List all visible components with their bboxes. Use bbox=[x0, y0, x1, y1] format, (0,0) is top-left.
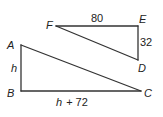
side-label-ab: h bbox=[11, 62, 17, 74]
similar-triangles-diagram: F E D A B C 80 32 h h+ 72 bbox=[0, 0, 163, 117]
triangle-def bbox=[56, 26, 138, 60]
edge-fd bbox=[56, 26, 138, 60]
side-label-bc: h+ 72 bbox=[56, 96, 88, 108]
vertex-label-d: D bbox=[138, 62, 146, 74]
side-label-bc-variable: h bbox=[56, 96, 62, 108]
vertex-label-b: B bbox=[7, 87, 14, 99]
vertex-label-a: A bbox=[6, 39, 14, 51]
vertex-label-e: E bbox=[139, 13, 147, 25]
triangle-abc bbox=[21, 45, 141, 91]
vertex-label-c: C bbox=[144, 87, 152, 99]
side-label-bc-constant: + 72 bbox=[66, 96, 88, 108]
edge-ac bbox=[21, 45, 141, 91]
side-label-ed: 32 bbox=[140, 36, 152, 48]
side-label-fe: 80 bbox=[91, 12, 103, 24]
vertex-label-f: F bbox=[46, 19, 54, 31]
